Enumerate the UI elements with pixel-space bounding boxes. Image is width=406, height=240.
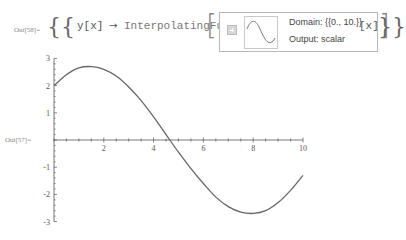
tick-label: 3 xyxy=(46,54,50,63)
plot-axes: 246810321-1-2-3 xyxy=(43,54,307,226)
tick-label: 10 xyxy=(299,144,307,153)
tick-label: -2 xyxy=(43,190,50,199)
tick-label: 6 xyxy=(201,144,205,153)
tick-label: -1 xyxy=(43,163,50,172)
tick-label: -3 xyxy=(43,218,50,227)
tick-label: 2 xyxy=(102,144,106,153)
tick-label: 2 xyxy=(46,82,50,91)
tick-label: 8 xyxy=(251,144,255,153)
tick-label: 4 xyxy=(152,144,156,153)
tick-label: 1 xyxy=(46,109,50,118)
